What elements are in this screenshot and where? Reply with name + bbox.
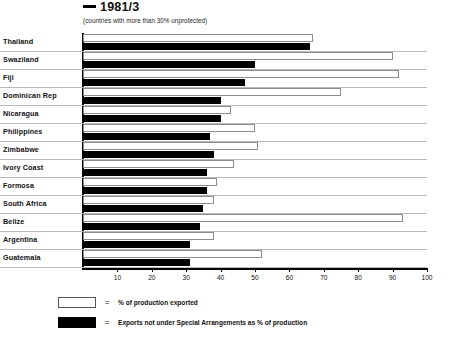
category-label: Thailand <box>3 37 33 46</box>
bar-not-special-arrangements <box>83 187 207 195</box>
legend-label-0: % of production exported <box>118 299 198 306</box>
bar-exported <box>83 178 217 186</box>
bar-not-special-arrangements <box>83 169 207 177</box>
row-divider <box>0 267 427 268</box>
axis-tick-mark <box>324 268 325 272</box>
axis-tick-mark <box>221 268 222 272</box>
legend-item-exported: = % of production exported <box>58 296 307 309</box>
axis-tick-mark <box>186 268 187 272</box>
title-text: 1981/3 <box>100 0 139 14</box>
bar-not-special-arrangements <box>83 259 190 267</box>
bar-exported <box>83 52 393 60</box>
category-label: Formosa <box>3 181 34 190</box>
chart-subtitle: (countries with more than 30% unprotecte… <box>83 16 207 25</box>
axis-tick-mark <box>427 268 428 272</box>
axis-tick-label: 20 <box>148 274 155 281</box>
legend-equals-1: = <box>96 318 118 327</box>
table-row: Fiji <box>83 69 427 87</box>
category-label: Swaziland <box>3 55 39 64</box>
bar-not-special-arrangements <box>83 43 310 51</box>
bar-not-special-arrangements <box>83 241 190 249</box>
table-row: Nicaragua <box>83 105 427 123</box>
bar-exported <box>83 34 313 42</box>
axis-tick-label: 60 <box>286 274 293 281</box>
axis-tick-label: 30 <box>183 274 190 281</box>
axis-tick-label: 80 <box>355 274 362 281</box>
page-title: 1981/3 <box>83 0 207 14</box>
bar-exported <box>83 142 258 150</box>
axis-tick-label: 90 <box>389 274 396 281</box>
bar-not-special-arrangements <box>83 151 214 159</box>
bar-exported <box>83 232 214 240</box>
axis-tick-mark <box>393 268 394 272</box>
category-label: Argentina <box>3 235 37 244</box>
axis-tick-label: 70 <box>320 274 327 281</box>
category-label: Philippines <box>3 127 42 136</box>
category-label: Guatemala <box>3 253 41 262</box>
axis-tick-mark <box>289 268 290 272</box>
axis-tick-mark <box>152 268 153 272</box>
category-label: Zimbabwe <box>3 145 39 154</box>
legend-equals-0: = <box>96 298 118 307</box>
chart-title-block: 1981/3 (countries with more than 30% unp… <box>83 0 207 25</box>
category-label: Dominican Rep <box>3 91 57 100</box>
axis-tick-label: 40 <box>217 274 224 281</box>
bar-exported <box>83 160 234 168</box>
table-row: Zimbabwe <box>83 141 427 159</box>
axis-tick-label: 10 <box>114 274 121 281</box>
table-row: Thailand <box>83 33 427 51</box>
bar-not-special-arrangements <box>83 205 203 213</box>
table-row: Swaziland <box>83 51 427 69</box>
bar-exported <box>83 88 341 96</box>
category-label: Belize <box>3 217 24 226</box>
table-row: Formosa <box>83 177 427 195</box>
bar-exported <box>83 214 403 222</box>
axis-tick-label: 50 <box>251 274 258 281</box>
legend-label-1: Exports not under Special Arrangements a… <box>118 319 307 326</box>
category-label: Fiji <box>3 73 14 82</box>
table-row: South Africa <box>83 195 427 213</box>
legend: = % of production exported = Exports not… <box>58 296 307 336</box>
bar-not-special-arrangements <box>83 79 245 87</box>
table-row: Philippines <box>83 123 427 141</box>
bar-not-special-arrangements <box>83 61 255 69</box>
axis-tick-mark <box>255 268 256 272</box>
legend-swatch-white-icon <box>58 297 96 308</box>
table-row: Belize <box>83 213 427 231</box>
bar-exported <box>83 124 255 132</box>
bar-not-special-arrangements <box>83 97 221 105</box>
bar-exported <box>83 250 262 258</box>
table-row: Ivory Coast <box>83 159 427 177</box>
title-dash-icon <box>83 5 96 8</box>
bar-exported <box>83 196 214 204</box>
category-label: Nicaragua <box>3 109 39 118</box>
legend-swatch-black-icon <box>58 317 96 328</box>
bar-not-special-arrangements <box>83 115 221 123</box>
chart-root: 1981/3 (countries with more than 30% unp… <box>0 0 458 340</box>
category-label: Ivory Coast <box>3 163 43 172</box>
bar-not-special-arrangements <box>83 133 210 141</box>
table-row: Dominican Rep <box>83 87 427 105</box>
bar-exported <box>83 106 231 114</box>
bar-exported <box>83 70 399 78</box>
axis-tick-label: 100 <box>421 274 432 281</box>
table-row: Argentina <box>83 231 427 249</box>
plot-area: ThailandSwazilandFijiDominican RepNicara… <box>83 33 427 268</box>
table-row: Guatemala <box>83 249 427 267</box>
bar-not-special-arrangements <box>83 223 200 231</box>
axis-tick-mark <box>117 268 118 272</box>
legend-item-not-special: = Exports not under Special Arrangements… <box>58 316 307 329</box>
category-label: South Africa <box>3 199 47 208</box>
axis-tick-mark <box>358 268 359 272</box>
